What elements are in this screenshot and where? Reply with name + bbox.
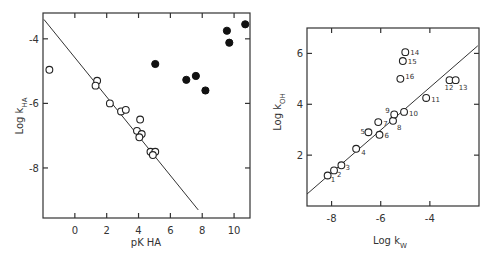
point-label: 6 <box>384 132 389 140</box>
open-data-point <box>137 116 144 123</box>
open-data-point <box>375 119 382 126</box>
open-data-point <box>136 134 143 141</box>
left-chart: 0246810 -4-6-8 pKHA Log kHA <box>14 13 250 248</box>
point-label: 14 <box>410 49 419 57</box>
x-tick-label: -6 <box>376 213 386 224</box>
point-label: 15 <box>408 58 417 66</box>
open-data-point <box>353 145 360 152</box>
filled-data-point <box>202 87 209 94</box>
x-tick-label: 0 <box>72 225 78 236</box>
open-data-point <box>452 77 459 84</box>
open-data-point <box>423 95 430 102</box>
right-y-axis: 246 <box>297 48 479 161</box>
open-data-point <box>106 100 113 107</box>
y-tick-label: -8 <box>29 163 39 174</box>
x-tick-label: 4 <box>135 225 141 236</box>
open-data-point <box>122 106 129 113</box>
x-tick-label: -8 <box>327 213 337 224</box>
left-y-axis: -4-6-8 <box>29 34 250 174</box>
point-label: 10 <box>409 110 418 118</box>
x-tick-label: 2 <box>104 225 110 236</box>
open-data-point <box>338 162 345 169</box>
right-data-points: 12345678910111213141516 <box>324 49 467 185</box>
open-data-point <box>46 66 53 73</box>
left-chart-frame <box>43 13 250 218</box>
filled-data-point <box>183 76 190 83</box>
right-y-axis-label: Log kOH <box>272 93 287 131</box>
open-data-point <box>399 58 406 65</box>
point-label: 11 <box>431 96 440 104</box>
open-data-point <box>402 49 409 56</box>
x-tick-label: 6 <box>167 225 173 236</box>
point-label: 7 <box>383 120 387 128</box>
y-tick-label: -4 <box>29 34 39 45</box>
open-data-point <box>376 131 383 138</box>
x-tick-label: 8 <box>199 225 205 236</box>
x-tick-label: 10 <box>228 225 241 236</box>
point-label: 2 <box>337 171 341 179</box>
left-y-axis-label: Log kHA <box>14 97 29 134</box>
y-tick-label: 2 <box>297 150 303 161</box>
point-label: 12 <box>445 84 454 92</box>
left-data-points <box>46 21 249 159</box>
left-x-axis: 0246810 <box>72 13 241 236</box>
filled-data-point <box>192 72 199 79</box>
point-label: 4 <box>361 149 366 157</box>
left-x-axis-label: pKHA <box>131 237 161 248</box>
filled-data-point <box>223 27 230 34</box>
filled-data-point <box>242 21 249 28</box>
filled-data-point <box>226 39 233 46</box>
open-data-point <box>401 109 408 116</box>
y-tick-label: -6 <box>29 98 39 109</box>
point-label: 5 <box>360 128 364 136</box>
open-data-point <box>92 82 99 89</box>
open-data-point <box>149 152 156 159</box>
open-data-point <box>391 111 398 118</box>
open-data-point <box>397 75 404 82</box>
point-label: 1 <box>331 176 335 184</box>
open-data-point <box>365 129 372 136</box>
point-label: 8 <box>397 124 401 132</box>
point-label: 3 <box>345 164 349 172</box>
x-tick-label: -4 <box>425 213 435 224</box>
point-label: 13 <box>459 84 468 92</box>
right-x-axis-label: Log kW <box>373 235 407 250</box>
open-data-point <box>390 117 397 124</box>
right-chart: -8-6-4 246 12345678910111213141516 Log k… <box>272 28 479 250</box>
y-tick-label: 6 <box>297 48 303 59</box>
point-label: 9 <box>385 107 389 115</box>
figure: 0246810 -4-6-8 pKHA Log kHA -8-6-4 246 1… <box>0 0 496 263</box>
point-label: 16 <box>405 73 414 81</box>
y-tick-label: 4 <box>297 99 303 110</box>
right-x-axis: -8-6-4 <box>327 28 435 224</box>
filled-data-point <box>152 60 159 67</box>
